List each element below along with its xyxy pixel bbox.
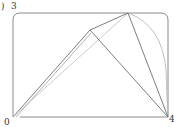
edge-a-4 [90,30,168,117]
edge-0-b [13,13,128,117]
label-top-left: 3 [11,1,17,11]
edge-a-b [90,13,128,30]
edge-0-a [13,30,90,117]
panel-mark: ) [1,1,5,11]
frame-rectangle [13,13,168,117]
label-bottom-left: 0 [4,117,10,127]
label-bottom-right: 4 [169,114,174,124]
geometry-diagram: ) 3 0 4 [0,0,174,127]
edge-b-4 [128,13,168,117]
